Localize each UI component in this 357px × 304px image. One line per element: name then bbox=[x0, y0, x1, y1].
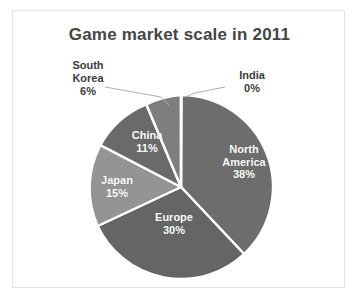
pie-label-north-america-line1: North bbox=[211, 143, 277, 156]
pie-label-south-korea-line2: Korea bbox=[57, 72, 119, 85]
pie-label-south-korea: South Korea 6% bbox=[57, 59, 119, 98]
chart-frame: Game market scale in 2011 North America bbox=[12, 10, 345, 288]
pie-label-india: India 0% bbox=[227, 69, 277, 95]
pie-label-europe: Europe 30% bbox=[141, 211, 207, 236]
pie-value-india: 0% bbox=[227, 82, 277, 95]
pie-svg bbox=[13, 11, 346, 289]
pie-value-japan: 15% bbox=[89, 187, 145, 200]
pie-label-south-korea-line1: South bbox=[57, 59, 119, 72]
pie-label-japan: Japan 15% bbox=[89, 174, 145, 199]
pie-value-north-america: 38% bbox=[211, 168, 277, 181]
pie-label-europe-name: Europe bbox=[141, 211, 207, 224]
pie-chart: North America 38% Europe 30% Japan 15% C… bbox=[13, 11, 346, 289]
pie-value-south-korea: 6% bbox=[57, 85, 119, 98]
pie-label-india-name: India bbox=[227, 69, 277, 82]
pie-slice-india[interactable] bbox=[181, 95, 182, 187]
pie-value-china: 11% bbox=[119, 142, 175, 155]
pie-label-north-america-line2: America bbox=[211, 156, 277, 169]
pie-label-north-america: North America 38% bbox=[211, 143, 277, 181]
pie-value-europe: 30% bbox=[141, 224, 207, 237]
pie-label-china: China 11% bbox=[119, 129, 175, 154]
pie-label-japan-name: Japan bbox=[89, 174, 145, 187]
pie-label-china-name: China bbox=[119, 129, 175, 142]
